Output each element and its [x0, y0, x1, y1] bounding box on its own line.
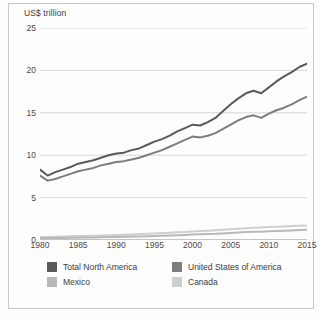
x-tick-label: 1980 [25, 240, 55, 250]
y-tick-label: 15 [16, 108, 36, 118]
y-tick-label: 5 [16, 193, 36, 203]
y-tick-label: 20 [16, 65, 36, 75]
legend-row-1: Total North America United States of Ame… [47, 262, 297, 277]
chart-figure: US$ trillion 0510152025 1980198519901995… [0, 0, 324, 323]
x-tick-label: 2005 [216, 240, 246, 250]
x-tick-label: 1995 [139, 240, 169, 250]
legend-swatch-icon [47, 277, 57, 287]
x-tick-label: 1990 [101, 240, 131, 250]
legend-item-label: Total North America [63, 262, 137, 272]
legend-row-2: Mexico Canada [47, 277, 297, 292]
legend-item-total-north-america[interactable]: Total North America [47, 262, 172, 272]
legend-item-canada[interactable]: Canada [172, 277, 297, 287]
legend-item-label: Mexico [63, 277, 90, 287]
legend-item-united-states-of-america[interactable]: United States of America [172, 262, 297, 272]
x-tick-label: 2010 [254, 240, 284, 250]
legend-swatch-icon [47, 262, 57, 272]
plot-area [40, 28, 307, 240]
chart-legend: Total North America United States of Ame… [47, 262, 297, 292]
legend-item-mexico[interactable]: Mexico [47, 277, 172, 287]
y-tick-label: 10 [16, 150, 36, 160]
y-axis-title: US$ trillion [24, 8, 66, 18]
x-tick-label: 2015 [292, 240, 322, 250]
legend-item-label: Canada [188, 277, 218, 287]
legend-swatch-icon [172, 262, 182, 272]
series-lines [40, 28, 307, 240]
legend-swatch-icon [172, 277, 182, 287]
y-tick-label: 25 [16, 23, 36, 33]
x-tick-label: 2000 [178, 240, 208, 250]
x-tick-label: 1985 [63, 240, 93, 250]
legend-item-label: United States of America [188, 262, 282, 272]
